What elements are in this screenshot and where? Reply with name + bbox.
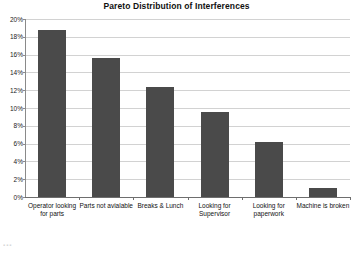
- y-axis-tick-label: 2%: [1, 176, 23, 183]
- y-axis-tick-label: 10%: [1, 105, 23, 112]
- y-axis-tick-label: 18%: [1, 33, 23, 40]
- x-axis-category-label: Looking for Supervisor: [188, 202, 242, 218]
- bar: [146, 87, 174, 197]
- bar: [201, 112, 229, 197]
- x-axis-tick-mark: [133, 197, 134, 200]
- x-axis-tick-mark: [350, 197, 351, 200]
- chart-title: Pareto Distribution of Interferences: [0, 1, 353, 11]
- scan-artifact: ▪▪▪: [3, 243, 19, 247]
- chart-container: Pareto Distribution of Interferences 20%…: [0, 0, 353, 253]
- bar: [255, 142, 283, 197]
- x-axis-tick-mark: [296, 197, 297, 200]
- y-axis-tick-label: 16%: [1, 51, 23, 58]
- y-axis-tick-label: 6%: [1, 140, 23, 147]
- x-axis-tick-mark: [79, 197, 80, 200]
- y-axis-tick-label: 14%: [1, 69, 23, 76]
- bar: [38, 30, 66, 197]
- x-axis-category-label: Breaks & Lunch: [133, 202, 187, 210]
- y-axis-tick-label: 4%: [1, 158, 23, 165]
- x-axis-tick-mark: [242, 197, 243, 200]
- x-axis-category-label: Machine is broken: [296, 202, 350, 210]
- y-axis-tick-label: 20%: [1, 16, 23, 23]
- y-axis-tick-label: 0%: [1, 194, 23, 201]
- bar-series: [25, 19, 350, 197]
- y-axis-tick-label: 8%: [1, 122, 23, 129]
- bar: [92, 58, 120, 197]
- x-axis-category-labels: Operator looking for partsParts not avia…: [25, 202, 350, 236]
- x-axis-category-label: Parts not avialable: [79, 202, 133, 210]
- y-axis-tick-labels: 20%18%16%14%12%10%8%6%4%2%0%: [0, 0, 23, 253]
- x-axis-category-label: Operator looking for parts: [25, 202, 79, 218]
- bar: [309, 188, 337, 197]
- x-axis-tick-mark: [188, 197, 189, 200]
- y-axis-tick-label: 12%: [1, 87, 23, 94]
- x-axis-category-label: Looking for paperwork: [242, 202, 296, 218]
